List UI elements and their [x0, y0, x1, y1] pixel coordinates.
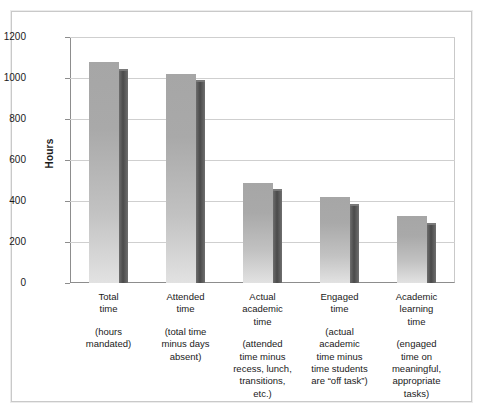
bar-face	[320, 197, 350, 283]
bar-face	[89, 62, 119, 283]
x-axis-category-label: Actual academic time(attended time minus…	[218, 291, 307, 400]
bar[interactable]	[166, 74, 205, 283]
bar-face	[397, 216, 427, 283]
y-axis-tick-label: 1200	[0, 31, 26, 42]
category-description: (hours mandated)	[64, 326, 153, 351]
x-axis-category-label: Academic learning time(engaged time on m…	[372, 291, 461, 400]
x-axis-category-label: Engaged time(actual academic time minus …	[295, 291, 384, 388]
bar[interactable]	[89, 62, 128, 283]
bar-side-top	[350, 204, 359, 206]
bar-face	[166, 74, 196, 283]
bar[interactable]	[243, 183, 282, 283]
bar-side-shadow	[427, 225, 436, 283]
bar[interactable]	[397, 216, 436, 283]
x-axis-category-label: Total time(hours mandated)	[64, 291, 153, 351]
bar-side-top	[119, 69, 128, 71]
category-description: (attended time minus recess, lunch, tran…	[218, 338, 307, 400]
plot-area	[70, 37, 455, 283]
category-name: Actual academic time	[218, 291, 307, 328]
y-axis-tick-label: 0	[0, 277, 26, 288]
bar-side-shadow	[119, 71, 128, 283]
bar-side-top	[196, 80, 205, 82]
y-axis-title: Hours	[44, 119, 55, 189]
bar-chart: Hours 120010008006004002000 Total time(h…	[0, 0, 485, 415]
bar-side-shadow	[273, 191, 282, 283]
y-axis-tick-label: 800	[0, 113, 26, 124]
category-description: (total time minus days absent)	[141, 326, 230, 363]
category-name: Academic learning time	[372, 291, 461, 328]
bar[interactable]	[320, 197, 359, 283]
bar-side-shadow	[350, 206, 359, 283]
category-description: (engaged time on meaningful, appropriate…	[372, 338, 461, 400]
y-axis-tick-label: 200	[0, 236, 26, 247]
chart-page: Hours 120010008006004002000 Total time(h…	[0, 0, 485, 415]
bar-side-shadow	[196, 82, 205, 283]
category-name: Engaged time	[295, 291, 384, 316]
x-axis-category-label: Attended time(total time minus days abse…	[141, 291, 230, 363]
y-axis-tick-mark	[65, 283, 70, 284]
y-axis-tick-label: 1000	[0, 72, 26, 83]
category-description: (actual academic time minus time student…	[295, 326, 384, 388]
y-axis-tick-label: 400	[0, 195, 26, 206]
y-axis-tick-label: 600	[0, 154, 26, 165]
gridline	[70, 37, 455, 38]
category-name: Attended time	[141, 291, 230, 316]
bar-face	[243, 183, 273, 283]
category-name: Total time	[64, 291, 153, 316]
bar-side-top	[273, 189, 282, 191]
bar-side-top	[427, 223, 436, 225]
